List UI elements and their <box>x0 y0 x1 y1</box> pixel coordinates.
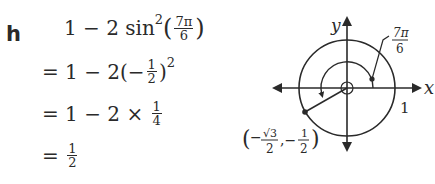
point-marker <box>302 109 308 115</box>
unit-circle-diagram: y x 1 7π 6 ( − √3 2 ,− 1 2 ) <box>0 0 435 184</box>
point-label-close-paren: ) <box>311 126 320 151</box>
radius-line <box>305 88 347 112</box>
y-axis-label: y <box>330 15 341 35</box>
point-label-comma: ,− <box>280 132 296 148</box>
point-label-y-numerator: 1 <box>301 127 308 140</box>
point-label-x-denominator: 2 <box>266 142 274 156</box>
angle-label-numerator: 7π <box>393 26 410 40</box>
angle-label-denominator: 6 <box>396 42 404 56</box>
point-label-y-denominator: 2 <box>300 142 308 156</box>
point-label: ( − √3 2 ,− 1 2 ) <box>242 126 320 156</box>
radius-label: 1 <box>400 99 410 117</box>
point-label-x-numerator: √3 <box>263 127 277 140</box>
point-label-minus: − <box>250 129 262 145</box>
leader-line <box>372 36 389 79</box>
x-axis-label: x <box>424 77 434 98</box>
angle-label: 7π 6 <box>392 26 410 56</box>
